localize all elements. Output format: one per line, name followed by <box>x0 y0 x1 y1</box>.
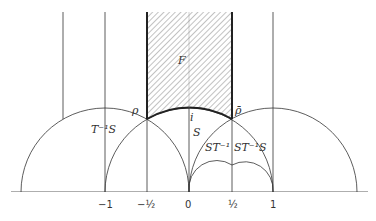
label-ST-inv-S: ST⁻¹S <box>234 141 267 154</box>
tick-0: 0 <box>185 199 191 210</box>
small-arc-right <box>232 162 273 192</box>
label-T-inv-S: T⁻¹S <box>91 123 117 136</box>
tick-1: 1 <box>270 199 276 210</box>
tick-minus-half: −½ <box>137 199 155 210</box>
label-rho-bar: ρ̄ <box>234 104 242 117</box>
fundamental-domain-F <box>147 12 232 119</box>
label-F: F <box>177 54 186 67</box>
label-ST-inv: ST⁻¹ <box>205 141 230 154</box>
small-arc-left <box>189 161 232 192</box>
modular-diagram: F ρ ρ̄ i S T⁻¹S ST⁻¹ ST⁻¹S −1 −½ 0 ½ 1 <box>0 0 376 221</box>
tick-half: ½ <box>228 199 238 210</box>
label-rho: ρ <box>131 104 139 117</box>
label-i: i <box>190 111 194 124</box>
label-S: S <box>193 126 201 139</box>
tick-minus-1: −1 <box>98 199 113 210</box>
